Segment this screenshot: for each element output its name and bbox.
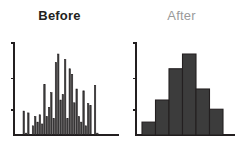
bar bbox=[51, 93, 52, 135]
bar bbox=[210, 109, 224, 135]
bar bbox=[87, 104, 88, 135]
bar bbox=[23, 111, 24, 135]
bar bbox=[37, 122, 38, 135]
bar bbox=[90, 106, 91, 135]
bar bbox=[64, 60, 65, 135]
bar bbox=[183, 54, 197, 135]
bar bbox=[71, 74, 72, 135]
figure-root: Before After bbox=[0, 0, 245, 166]
bar bbox=[46, 117, 47, 135]
bar bbox=[44, 84, 45, 135]
bar bbox=[85, 126, 86, 135]
bar bbox=[142, 122, 156, 135]
bar bbox=[81, 122, 82, 135]
bar bbox=[94, 85, 95, 135]
bar bbox=[78, 117, 79, 135]
bar bbox=[48, 107, 49, 135]
bar bbox=[53, 118, 54, 135]
histogram-after bbox=[122, 0, 245, 166]
bar bbox=[55, 62, 56, 135]
bar bbox=[67, 118, 68, 135]
bar bbox=[35, 117, 36, 135]
bar bbox=[169, 69, 183, 135]
bar bbox=[32, 126, 33, 135]
panel-before: Before bbox=[0, 0, 125, 166]
bar bbox=[69, 69, 70, 135]
bar bbox=[60, 100, 61, 135]
bar bbox=[156, 100, 170, 135]
bar bbox=[41, 124, 42, 135]
bar bbox=[62, 95, 63, 135]
bar bbox=[76, 89, 77, 135]
histogram-before bbox=[0, 0, 125, 166]
bar bbox=[196, 89, 210, 135]
bar bbox=[83, 91, 84, 135]
panel-after: After bbox=[122, 0, 245, 166]
bar bbox=[25, 133, 26, 135]
bar bbox=[28, 113, 29, 135]
bar bbox=[97, 133, 98, 135]
bar bbox=[74, 103, 75, 135]
bar bbox=[58, 54, 59, 135]
bar bbox=[39, 115, 40, 135]
